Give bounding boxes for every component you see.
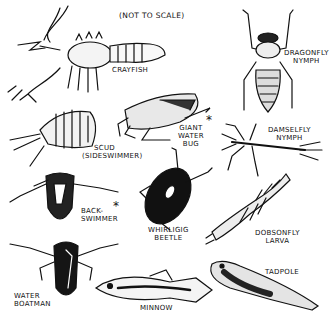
illustrations [0, 0, 329, 312]
label-dragonfly-nymph: DRAGONFLY NYMPH [284, 49, 329, 65]
aquatic-animals-diagram: (NOT TO SCALE) CRAYFISH DRAGONFLY NYMPH … [0, 0, 329, 312]
label-damselfly-nymph: DAMSELFLY NYMPH [268, 126, 311, 142]
label-dobsonfly-larva: DOBSONFLY LARVA [255, 229, 300, 245]
label-tadpole: TADPOLE [265, 268, 299, 276]
label-giant-water-bug: GIANT WATER BUG [178, 124, 204, 148]
label-crayfish: CRAYFISH [112, 66, 148, 74]
not-to-scale-note: (NOT TO SCALE) [119, 12, 184, 20]
whirligig-beetle-drawing [136, 148, 212, 232]
marker-backswimmer: * [113, 200, 119, 212]
label-whirligig-beetle: WHIRLIGIG BEETLE [148, 226, 189, 242]
crayfish-drawing [8, 6, 165, 102]
label-scud: SCUD (SIDESWIMMER) [82, 144, 142, 160]
label-minnow: MINNOW [140, 304, 173, 312]
marker-giant-water-bug: * [206, 114, 212, 126]
minnow-drawing [96, 270, 212, 302]
label-water-boatman: WATER BOATMAN [14, 292, 51, 308]
